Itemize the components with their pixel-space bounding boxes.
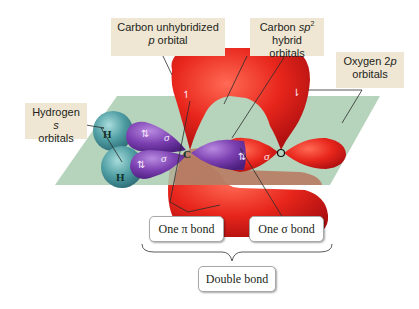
electron-down-oxygen-p: ⇂: [292, 87, 300, 98]
callout-carbon-p-line1: Carbon unhybridized: [115, 21, 221, 34]
electron-up-carbon-p: ↿: [182, 89, 190, 100]
callout-carbon-unhybridized-p: Carbon unhybridized p orbital: [111, 18, 225, 56]
double-bond-brace: [142, 244, 332, 261]
hydrogen-s-orbital-top: [93, 111, 133, 151]
callout-sp2-italic: sp: [299, 21, 311, 33]
callout-hydrogen-s: Hydrogen s orbitals: [25, 103, 87, 139]
pi-bond-box: One π bond: [149, 216, 224, 242]
atom-hydrogen-bottom: H: [116, 171, 125, 183]
callout-carbon-p-rest: orbital: [155, 34, 188, 46]
sigma-label-ch-top: σ: [164, 131, 170, 143]
callout-oxygen-2p: Oxygen 2p orbitals: [336, 52, 404, 88]
electron-pair-ch-top: ⇅: [141, 128, 149, 139]
atom-carbon: C: [183, 148, 191, 160]
callout-hydrogen-line2: orbitals: [29, 132, 83, 145]
leader-carbon-p: [162, 54, 172, 75]
callout-sp2-sup: 2: [310, 20, 314, 27]
callout-sp2-line2: hybrid orbitals: [254, 34, 320, 60]
callout-hydrogen-italic: s: [53, 119, 59, 131]
callout-hydrogen-prefix: Hydrogen: [32, 106, 80, 118]
double-bond-box: Double bond: [198, 266, 276, 292]
sigma-bond-box: One σ bond: [249, 216, 324, 242]
sigma-label-ch-bottom: σ: [161, 152, 167, 164]
callout-oxygen-line2: orbitals: [340, 68, 400, 81]
callout-carbon-sp2: Carbon sp2 hybrid orbitals: [250, 18, 324, 56]
callout-oxygen-prefix: Oxygen 2: [343, 55, 390, 67]
sigma-label-co: σ: [264, 150, 270, 162]
callout-sp2-prefix: Carbon: [260, 21, 299, 33]
electron-pair-ch-bottom: ⇅: [137, 159, 145, 170]
callout-oxygen-italic: p: [390, 55, 396, 67]
